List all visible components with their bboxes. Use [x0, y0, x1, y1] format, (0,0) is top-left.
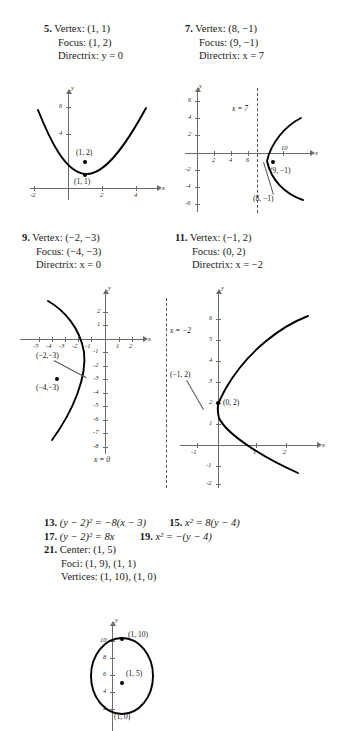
focus-point-label: (0, 2) — [223, 398, 239, 407]
problem-7-line-3: Directrix: x = 7 — [199, 50, 264, 61]
answers-block: 13. (y − 2)² = −8(x − 3) 15. x² = 8(y − … — [44, 516, 240, 584]
answer-15-text: x² = 8(y − 4) — [185, 517, 240, 528]
problem-21-text: 21. Center: (1, 5) Foci: (1, 9), (1, 1) … — [44, 543, 240, 584]
problem-11-line-2: Focus: (0, 2) — [192, 246, 245, 257]
problem-21-number: 21. — [44, 544, 57, 555]
focus-point-dot — [216, 401, 220, 405]
problem-5-text: 5. Vertex: (1, 1) Focus: (1, 2) Directri… — [44, 22, 169, 63]
parabola-curve — [12, 288, 162, 488]
problem-9-line-2: Focus: (−4, −3) — [36, 246, 101, 257]
problem-5-line-2: Focus: (1, 2) — [58, 37, 111, 48]
vertex-point-label: (1, 1) — [74, 177, 90, 186]
vertex-point-label: (−1, 2) — [170, 370, 190, 379]
focus-point-dot — [55, 377, 59, 381]
answer-17-number: 17. — [44, 531, 57, 542]
answer-row-1: 13. (y − 2)² = −8(x − 3) 15. x² = 8(y − … — [44, 516, 240, 530]
answer-13-text: (y − 2)² = −8(x − 3) — [60, 517, 146, 528]
problem-5-line-1: Vertex: (1, 1) — [54, 23, 110, 34]
answer-key-page: 5. Vertex: (1, 1) Focus: (1, 2) Directri… — [0, 0, 338, 731]
problem-9-line-3: Directrix: x = 0 — [36, 259, 101, 270]
problem-5-line-3: Directrix: y = 0 — [58, 50, 123, 61]
answer-19-number: 19. — [140, 531, 153, 542]
problem-row-9-11: 9. Vertex: (−2, −3) Focus: (−4, −3) Dire… — [0, 231, 338, 272]
problem-21-line-3: Vertices: (1, 10), (1, 0) — [61, 571, 156, 582]
parabola-curve — [30, 88, 165, 203]
vertex-top-label: (1, 10) — [128, 630, 148, 639]
problem-9-number: 9. — [22, 232, 30, 243]
focus-point-dot — [271, 160, 275, 164]
graph-problem-9: x y -5 -4 -3 -2 -1 1 2 2 1 -1 -2 -3 -4 -… — [12, 288, 162, 488]
problem-11-number: 11. — [175, 232, 188, 243]
problem-7: 7. Vertex: (8, −1) Focus: (9, −1) Direct… — [169, 22, 338, 63]
graph-problem-21: y 10 8 6 4 2 (1, 10) (1, 5) (1, 0) — [70, 620, 220, 731]
problem-11-line-3: Directrix: x = −2 — [192, 259, 263, 270]
graph-problem-7: x y 2 4 6 10 6 4 2 -2 -4 -6 x = 7 (9, −1 — [185, 88, 335, 213]
vertex-top-dot — [120, 637, 124, 641]
parabola-curve — [178, 288, 333, 488]
focus-point-label: (−4,−3) — [36, 383, 59, 392]
directrix-line — [166, 298, 167, 488]
problem-11-text: 11. Vertex: (−1, 2) Focus: (0, 2) Direct… — [175, 231, 338, 272]
center-label: (1, 5) — [126, 669, 142, 678]
problem-9-text: 9. Vertex: (−2, −3) Focus: (−4, −3) Dire… — [22, 231, 169, 272]
answer-row-2: 17. (y − 2)² = 8x 19. x² = −(y − 4) — [44, 530, 240, 544]
focus-point-label: (1, 2) — [76, 148, 92, 157]
answer-17-text: (y − 2)² = 8x — [60, 531, 115, 542]
answer-19-text: x² = −(y − 4) — [155, 531, 211, 542]
problem-7-line-1: Vertex: (8, −1) — [195, 23, 257, 34]
vertex-bottom-label: (1, 0) — [114, 712, 130, 721]
vertex-point-label: (8, −1) — [253, 194, 273, 203]
focus-point-dot — [83, 160, 87, 164]
problem-21-line-1: Center: (1, 5) — [60, 544, 116, 555]
focus-point-label: (9, −1) — [270, 166, 290, 175]
problem-7-line-2: Focus: (9, −1) — [199, 37, 258, 48]
graph-problem-5: x y -2 2 4 4 6 (1, 2) (1, 1) — [30, 88, 165, 203]
vertex-point-label: (−2,−3) — [36, 351, 59, 360]
problem-5: 5. Vertex: (1, 1) Focus: (1, 2) Directri… — [0, 22, 169, 63]
answer-13-number: 13. — [44, 517, 57, 528]
problem-9: 9. Vertex: (−2, −3) Focus: (−4, −3) Dire… — [0, 231, 169, 272]
graph-problem-11: x y -1 1 2 6 5 4 3 2 1 -1 -2 x = −2 — [178, 288, 333, 488]
problem-row-5-7: 5. Vertex: (1, 1) Focus: (1, 2) Directri… — [0, 22, 338, 63]
problem-9-line-1: Vertex: (−2, −3) — [32, 232, 100, 243]
problem-11: 11. Vertex: (−1, 2) Focus: (0, 2) Direct… — [169, 231, 338, 272]
problem-5-number: 5. — [44, 23, 52, 34]
problem-11-line-1: Vertex: (−1, 2) — [190, 232, 252, 243]
center-dot — [120, 681, 124, 685]
problem-7-text: 7. Vertex: (8, −1) Focus: (9, −1) Direct… — [185, 22, 338, 63]
answer-15-number: 15. — [169, 517, 182, 528]
problem-21-line-2: Foci: (1, 9), (1, 1) — [61, 558, 136, 569]
problem-7-number: 7. — [185, 23, 193, 34]
